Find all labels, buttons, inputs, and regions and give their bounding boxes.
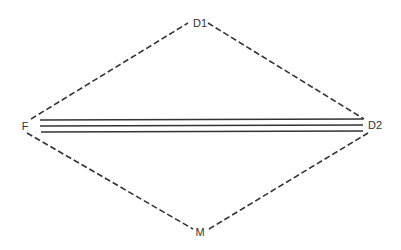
- edge-d1-d2: [208, 23, 364, 119]
- node-d2-label: D2: [368, 119, 382, 131]
- triple-line-f-d2: [40, 119, 363, 132]
- edge-f-d1: [31, 23, 188, 119]
- node-f-label: F: [22, 120, 29, 132]
- edge-f-m: [27, 133, 193, 229]
- node-d1-label: D1: [193, 17, 207, 29]
- node-m-label: M: [195, 226, 204, 238]
- relationship-diagram: D1 F D2 M: [0, 0, 401, 250]
- edge-m-d2: [209, 133, 368, 229]
